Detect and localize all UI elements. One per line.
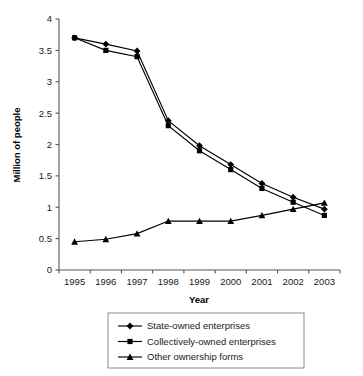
data-point-square bbox=[72, 35, 77, 40]
legend-item-1[interactable]: Collectively-owned enterprises bbox=[118, 336, 276, 347]
data-point-diamond bbox=[127, 323, 134, 330]
y-tick-label: 4 bbox=[47, 13, 52, 24]
x-axis-tick-labels: 199519961997199819992000200120022003 bbox=[64, 276, 335, 287]
y-tick-label: 2.5 bbox=[39, 108, 52, 119]
data-point-diamond bbox=[259, 180, 266, 187]
data-point-square bbox=[291, 200, 296, 205]
y-axis-tick-labels: 00.511.522.533.54 bbox=[39, 13, 52, 275]
y-tick-label: 1 bbox=[47, 202, 52, 213]
chart-canvas: 00.511.522.533.54 1995199619971998199920… bbox=[0, 0, 363, 376]
legend-item-0[interactable]: State-owned enterprises bbox=[118, 320, 250, 331]
y-axis-title: Million of people bbox=[11, 108, 22, 183]
data-point-square bbox=[103, 48, 108, 53]
series-1 bbox=[72, 35, 327, 218]
series-0 bbox=[71, 34, 328, 212]
line-chart: 00.511.522.533.54 1995199619971998199920… bbox=[0, 0, 363, 376]
x-tick-label: 2002 bbox=[283, 276, 304, 287]
legend-item-2[interactable]: Other ownership forms bbox=[118, 351, 243, 362]
legend-label: State-owned enterprises bbox=[147, 320, 250, 331]
x-tick-label: 2000 bbox=[220, 276, 241, 287]
legend-label: Collectively-owned enterprises bbox=[147, 336, 276, 347]
y-tick-label: 1.5 bbox=[39, 170, 52, 181]
data-point-diamond bbox=[227, 161, 234, 168]
x-tick-label: 1997 bbox=[126, 276, 147, 287]
data-point-square bbox=[322, 213, 327, 218]
series-2 bbox=[71, 199, 328, 244]
x-tick-label: 2001 bbox=[251, 276, 272, 287]
x-tick-label: 1995 bbox=[64, 276, 85, 287]
x-axis-title: Year bbox=[189, 294, 209, 305]
y-tick-label: 2 bbox=[47, 139, 52, 150]
data-point-square bbox=[134, 54, 139, 59]
y-tick-label: 0 bbox=[47, 264, 52, 275]
data-point-diamond bbox=[321, 206, 328, 213]
data-point-square bbox=[228, 167, 233, 172]
x-tick-label: 1999 bbox=[189, 276, 210, 287]
data-point-square bbox=[197, 148, 202, 153]
data-point-square bbox=[166, 123, 171, 128]
x-tick-label: 1998 bbox=[158, 276, 179, 287]
data-point-diamond bbox=[290, 194, 297, 201]
y-tick-label: 3 bbox=[47, 76, 52, 87]
data-point-square bbox=[127, 339, 132, 344]
data-point-triangle bbox=[321, 199, 328, 205]
data-point-diamond bbox=[102, 41, 109, 48]
x-tick-label: 1996 bbox=[95, 276, 116, 287]
data-point-diamond bbox=[134, 48, 141, 55]
x-tick-label: 2003 bbox=[314, 276, 335, 287]
series-line bbox=[75, 38, 325, 209]
data-point-square bbox=[259, 186, 264, 191]
y-tick-label: 0.5 bbox=[39, 233, 52, 244]
y-tick-label: 3.5 bbox=[39, 45, 52, 56]
series-line bbox=[75, 38, 325, 216]
series-layer bbox=[71, 34, 328, 244]
legend-entries: State-owned enterprisesCollectively-owne… bbox=[118, 320, 276, 362]
legend-label: Other ownership forms bbox=[147, 351, 243, 362]
data-point-triangle bbox=[134, 230, 141, 236]
